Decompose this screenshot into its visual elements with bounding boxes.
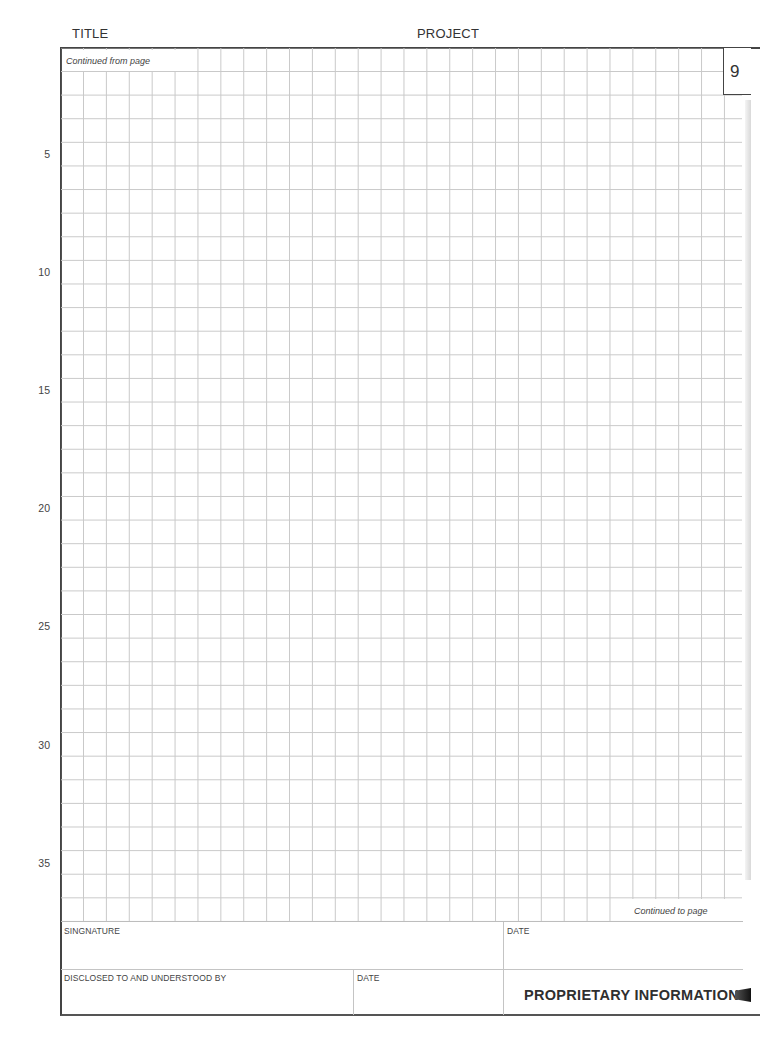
page-number-box: 9: [723, 48, 751, 95]
signature-date-field[interactable]: DATE: [507, 926, 529, 936]
disclosed-date-divider: [353, 969, 354, 1015]
disclosed-to-field[interactable]: DISCLOSED TO AND UNDERSTOOD BY: [64, 973, 226, 983]
row-number-label: 15: [20, 384, 50, 396]
page-edge-shadow: [745, 100, 751, 880]
continued-to-field[interactable]: Continued to page: [630, 899, 742, 921]
row-number-label: 25: [20, 620, 50, 632]
row-number-label: 35: [20, 857, 50, 869]
proprietary-information-label: PROPRIETARY INFORMATION: [524, 987, 739, 1003]
project-label: PROJECT: [417, 26, 479, 41]
row-number-label: 20: [20, 502, 50, 514]
date-column-divider: [503, 922, 504, 1015]
continued-from-field[interactable]: Continued from page: [62, 50, 176, 71]
signature-field[interactable]: SINGNATURE: [64, 926, 120, 936]
disclosed-date-field[interactable]: DATE: [357, 973, 379, 983]
row-number-label: 30: [20, 739, 50, 751]
row-number-label: 10: [20, 266, 50, 278]
row-number-label: 5: [20, 148, 50, 160]
title-label: TITLE: [72, 26, 108, 41]
graph-grid[interactable]: [61, 48, 742, 922]
signature-divider: [61, 969, 743, 970]
